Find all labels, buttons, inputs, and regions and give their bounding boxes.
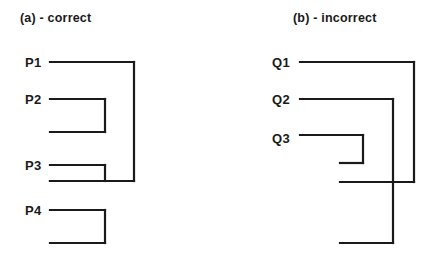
- figure-container: (a) - correct (b) - incorrect P1 P2 P3 P…: [0, 0, 437, 255]
- bracket-lines-layer: [0, 0, 437, 255]
